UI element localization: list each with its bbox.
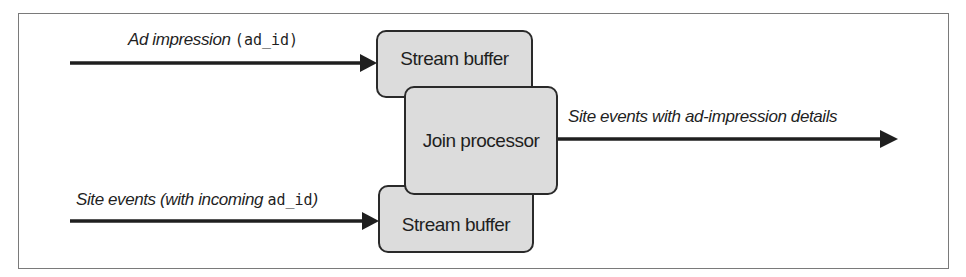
join-processor-label: Join processor xyxy=(423,130,540,152)
output-text: Site events with ad-impression details xyxy=(568,107,837,126)
arrow-output xyxy=(557,130,898,148)
stream-buffer-bottom-label: Stream buffer xyxy=(402,214,510,236)
arrow-site-events xyxy=(70,212,379,230)
site-events-close-paren: ) xyxy=(313,190,318,209)
ad-impression-close-paren: ) xyxy=(289,31,298,49)
site-events-text: Site events (with incoming xyxy=(76,190,267,209)
stream-buffer-top-label: Stream buffer xyxy=(400,48,508,70)
ad-id-code: ad_id xyxy=(244,31,289,49)
join-processor: Join processor xyxy=(404,86,558,195)
edge-label-output: Site events with ad-impression details xyxy=(568,107,837,127)
site-events-ad-id-code: ad_id xyxy=(267,191,312,209)
edge-label-site-events: Site events (with incoming ad_id) xyxy=(76,190,318,210)
ad-impression-open-paren: ( xyxy=(235,31,244,49)
edge-label-ad-impression: Ad impression (ad_id) xyxy=(128,30,298,50)
ad-impression-text: Ad impression xyxy=(128,30,231,49)
stream-buffer-bottom: Stream buffer xyxy=(378,185,534,253)
arrow-ad-impression xyxy=(70,54,377,72)
